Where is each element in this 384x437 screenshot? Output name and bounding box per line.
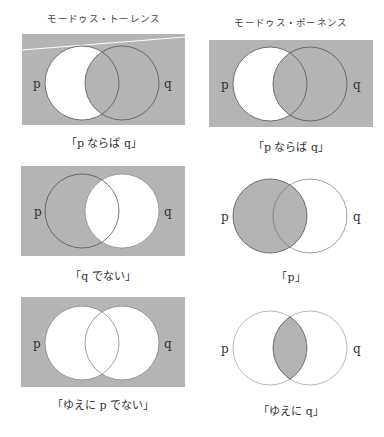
venn-tollens-premise-1: p q bbox=[22, 34, 185, 125]
venn-tollens-premise-2: p q bbox=[21, 166, 185, 256]
label-q: q bbox=[164, 77, 172, 91]
circle-q-fill bbox=[85, 306, 159, 380]
caption-ponens-conclusion: 「ゆえに q」 bbox=[209, 402, 373, 418]
label-p: p bbox=[34, 205, 42, 219]
label-q: q bbox=[353, 210, 361, 224]
label-q: q bbox=[353, 342, 361, 356]
venn-ponens-conclusion: p q bbox=[221, 311, 361, 385]
caption-tollens-premise-1: 「p ならば q」 bbox=[22, 134, 186, 150]
label-q: q bbox=[164, 337, 172, 351]
venn-tollens-conclusion: p q bbox=[21, 297, 185, 387]
label-p: p bbox=[221, 78, 229, 92]
caption-tollens-conclusion: 「ゆえに p でない」 bbox=[21, 396, 185, 412]
label-q: q bbox=[164, 205, 172, 219]
caption-ponens-premise-2: 「p」 bbox=[209, 268, 373, 284]
venn-ponens-premise-2: p q bbox=[221, 179, 361, 253]
label-p: p bbox=[221, 210, 229, 224]
venn-ponens-premise-1: p q bbox=[209, 40, 373, 127]
caption-ponens-premise-1: 「p ならば q」 bbox=[209, 138, 373, 154]
label-p: p bbox=[33, 337, 41, 351]
label-q: q bbox=[353, 78, 361, 92]
venn-diagrams-canvas: p q p q p q p q p q bbox=[0, 0, 384, 437]
caption-tollens-premise-2: 「q でない」 bbox=[21, 267, 185, 283]
label-p: p bbox=[33, 77, 41, 91]
label-p: p bbox=[221, 342, 229, 356]
circle-q-fill bbox=[85, 174, 159, 248]
